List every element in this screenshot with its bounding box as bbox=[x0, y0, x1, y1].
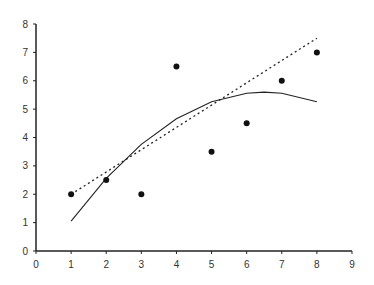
data-point bbox=[314, 49, 320, 55]
x-tick-label: 5 bbox=[209, 259, 215, 270]
y-tick-label: 2 bbox=[22, 189, 28, 200]
x-tick-label: 7 bbox=[279, 259, 285, 270]
x-tick-label: 6 bbox=[244, 259, 250, 270]
data-point bbox=[138, 191, 144, 197]
y-tick-label: 5 bbox=[22, 104, 28, 115]
x-tick-label: 0 bbox=[33, 259, 39, 270]
data-point bbox=[173, 64, 179, 70]
data-point bbox=[244, 120, 250, 126]
x-tick-label: 4 bbox=[174, 259, 180, 270]
y-tick-label: 3 bbox=[22, 160, 28, 171]
data-point bbox=[103, 177, 109, 183]
y-tick-label: 6 bbox=[22, 75, 28, 86]
data-point bbox=[279, 78, 285, 84]
x-tick-label: 9 bbox=[349, 259, 355, 270]
quadratic-fit-curve bbox=[71, 92, 317, 221]
data-point bbox=[209, 149, 215, 155]
data-point bbox=[68, 191, 74, 197]
y-tick-label: 4 bbox=[22, 132, 28, 143]
y-tick-label: 8 bbox=[22, 19, 28, 30]
y-tick-label: 1 bbox=[22, 217, 28, 228]
linear-fit-line bbox=[71, 38, 317, 194]
y-tick-label: 7 bbox=[22, 47, 28, 58]
x-tick-label: 8 bbox=[314, 259, 320, 270]
scatter-chart: 0123456780123456789 bbox=[0, 0, 374, 285]
x-tick-label: 3 bbox=[139, 259, 145, 270]
plot-area bbox=[68, 38, 320, 221]
axes: 0123456780123456789 bbox=[22, 19, 355, 271]
x-tick-label: 1 bbox=[68, 259, 74, 270]
x-tick-label: 2 bbox=[103, 259, 109, 270]
y-tick-label: 0 bbox=[22, 246, 28, 257]
